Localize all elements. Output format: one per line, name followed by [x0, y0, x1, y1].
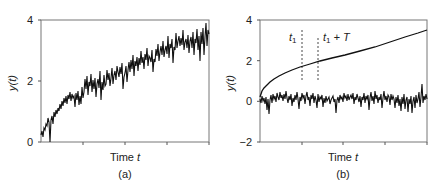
panel-b-xlabel: Time t — [328, 151, 359, 163]
panel-a: 4 2 0 y(t) Time t (a) — [6, 14, 209, 180]
panel-b-ytick-4: 4 — [246, 14, 252, 26]
panel-b-noise-series — [260, 84, 427, 114]
panel-b-ytick-0: 0 — [246, 95, 252, 107]
panel-a-ylabel: y(t) — [6, 75, 18, 92]
figure: 4 2 0 y(t) Time t (a) 4 2 0 −2 y(t) Time… — [0, 0, 439, 189]
t1-plus-T-annotation: t1 + T — [323, 31, 351, 45]
panel-a-ytick-0: 0 — [27, 136, 33, 148]
panel-a-ytick-4: 4 — [27, 14, 33, 26]
panel-b-label: (b) — [336, 168, 349, 180]
panel-a-label: (a) — [118, 168, 131, 180]
t1-annotation: t1 — [289, 31, 297, 45]
panel-b-ytick-neg2: −2 — [239, 136, 252, 148]
panel-a-ytick-2: 2 — [27, 75, 33, 87]
panel-b-ytick-2: 2 — [246, 55, 252, 67]
panel-b: 4 2 0 −2 y(t) Time t (b) t1 t1 + T — [224, 14, 427, 180]
panel-b-ylabel: y(t) — [224, 75, 236, 92]
panel-a-xlabel: Time t — [110, 151, 141, 163]
panel-a-noisy-series — [41, 23, 209, 142]
